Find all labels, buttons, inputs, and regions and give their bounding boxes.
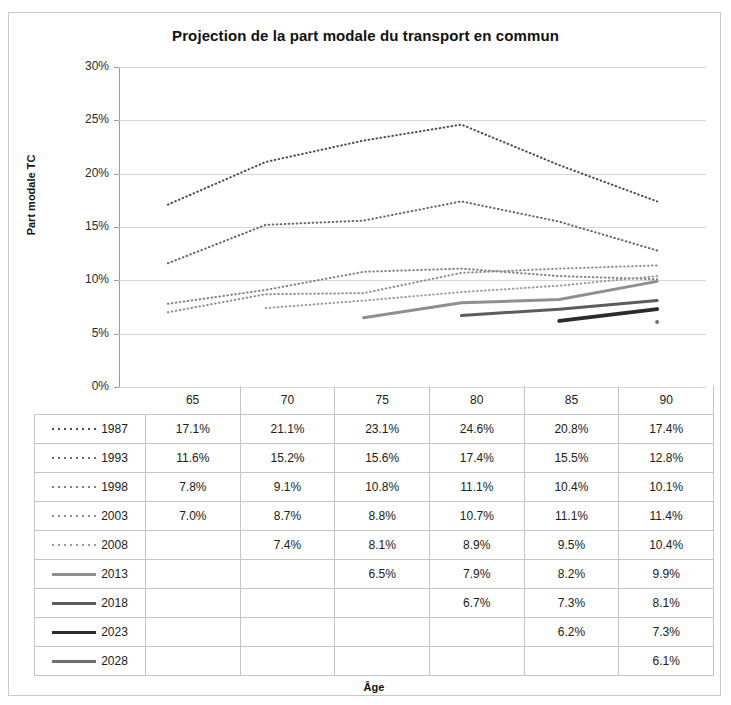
legend-item-2018[interactable]: 2018 [35, 589, 146, 618]
table-cell: 21.1% [240, 415, 335, 444]
legend-item-2028[interactable]: 2028 [35, 647, 146, 676]
table-cell: 11.6% [146, 444, 241, 473]
table-cell [240, 618, 335, 647]
table-header-age-80: 80 [429, 386, 524, 415]
table-cell [146, 647, 241, 676]
legend-item-1993[interactable]: 1993 [35, 444, 146, 473]
legend-item-1987[interactable]: 1987 [35, 415, 146, 444]
table-cell: 11.1% [524, 502, 619, 531]
series-line-2003 [168, 265, 657, 312]
legend-swatch-2008 [52, 544, 96, 546]
legend-swatch-2028 [52, 660, 96, 663]
table-cell: 24.6% [429, 415, 524, 444]
legend-label-2008: 2008 [101, 538, 128, 552]
y-axis-tick-label: 5% [61, 326, 109, 340]
table-cell: 10.4% [524, 473, 619, 502]
table-cell: 6.1% [619, 647, 714, 676]
table-cell: 7.3% [524, 589, 619, 618]
table-body: 198717.1%21.1%23.1%24.6%20.8%17.4%199311… [35, 415, 714, 676]
table-header-age-85: 85 [524, 386, 619, 415]
legend-swatch-2013 [52, 573, 96, 576]
table-cell: 8.8% [335, 502, 430, 531]
legend-swatch-1987 [52, 428, 96, 430]
table-row: 20286.1% [35, 647, 714, 676]
table-row: 199311.6%15.2%15.6%17.4%15.5%12.8% [35, 444, 714, 473]
table-cell: 7.8% [146, 473, 241, 502]
table-cell: 7.3% [619, 618, 714, 647]
legend-item-2013[interactable]: 2013 [35, 560, 146, 589]
table-cell: 7.0% [146, 502, 241, 531]
series-line-1987 [168, 125, 657, 205]
table-cell: 23.1% [335, 415, 430, 444]
table-cell: 15.2% [240, 444, 335, 473]
table-cell [335, 618, 430, 647]
y-axis-title: Part modale TC [25, 135, 37, 255]
legend-label-1993: 1993 [101, 451, 128, 465]
table-cell: 17.4% [429, 444, 524, 473]
series-point-2028 [655, 320, 659, 324]
table-cell: 17.1% [146, 415, 241, 444]
table-cell: 7.4% [240, 531, 335, 560]
legend-label-1987: 1987 [101, 422, 128, 436]
data-table: 657075808590 198717.1%21.1%23.1%24.6%20.… [34, 386, 714, 676]
table-cell [240, 560, 335, 589]
table-cell [146, 618, 241, 647]
series-line-1993 [168, 201, 657, 263]
table-cell [240, 647, 335, 676]
table-cell: 12.8% [619, 444, 714, 473]
table-cell: 6.7% [429, 589, 524, 618]
table-cell: 8.9% [429, 531, 524, 560]
table-cell: 7.9% [429, 560, 524, 589]
table-cell [429, 647, 524, 676]
table-header-age-65: 65 [146, 386, 241, 415]
table-row: 20087.4%8.1%8.9%9.5%10.4% [35, 531, 714, 560]
table-cell: 11.4% [619, 502, 714, 531]
legend-label-2013: 2013 [101, 567, 128, 581]
legend-swatch-1998 [52, 486, 96, 488]
y-axis-tick-label: 25% [61, 112, 109, 126]
table-cell [146, 589, 241, 618]
table-cell: 9.5% [524, 531, 619, 560]
series-line-1998 [168, 269, 657, 304]
legend-label-2023: 2023 [101, 625, 128, 639]
table-row: 20136.5%7.9%8.2%9.9% [35, 560, 714, 589]
legend-label-2028: 2028 [101, 654, 128, 668]
table-cell: 8.1% [335, 531, 430, 560]
table-cell [240, 589, 335, 618]
table-cell: 6.2% [524, 618, 619, 647]
table-cell: 10.4% [619, 531, 714, 560]
table-row: 19987.8%9.1%10.8%11.1%10.4%10.1% [35, 473, 714, 502]
table-cell [146, 531, 241, 560]
legend-label-2018: 2018 [101, 596, 128, 610]
legend-item-2003[interactable]: 2003 [35, 502, 146, 531]
table-cell: 10.7% [429, 502, 524, 531]
legend-item-2023[interactable]: 2023 [35, 618, 146, 647]
table-cell [146, 560, 241, 589]
legend-swatch-1993 [52, 457, 96, 459]
legend-label-2003: 2003 [101, 509, 128, 523]
table-cell: 11.1% [429, 473, 524, 502]
table-cell: 10.8% [335, 473, 430, 502]
table-row: 198717.1%21.1%23.1%24.6%20.8%17.4% [35, 415, 714, 444]
table-row: 20186.7%7.3%8.1% [35, 589, 714, 618]
table-cell: 17.4% [619, 415, 714, 444]
table-cell: 8.7% [240, 502, 335, 531]
legend-swatch-2003 [52, 515, 96, 517]
table-cell: 10.1% [619, 473, 714, 502]
y-axis-tick-label: 15% [61, 219, 109, 233]
legend-item-2008[interactable]: 2008 [35, 531, 146, 560]
table-cell [429, 618, 524, 647]
table-header-row: 657075808590 [35, 386, 714, 415]
chart-container: Projection de la part modale du transpor… [8, 12, 721, 696]
y-axis-tick-label: 10% [61, 272, 109, 286]
table-cell: 20.8% [524, 415, 619, 444]
table-cell: 8.2% [524, 560, 619, 589]
table-row: 20236.2%7.3% [35, 618, 714, 647]
table-cell: 9.9% [619, 560, 714, 589]
legend-swatch-2023 [52, 631, 96, 634]
table-header-legend-spacer [35, 386, 146, 415]
x-axis-title: Âge [34, 681, 714, 693]
legend-item-1998[interactable]: 1998 [35, 473, 146, 502]
table-header-age-70: 70 [240, 386, 335, 415]
table-header-age-90: 90 [619, 386, 714, 415]
